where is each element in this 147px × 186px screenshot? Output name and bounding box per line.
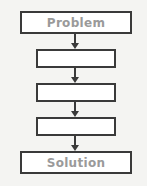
arrow-down-icon	[73, 136, 77, 151]
step-box-2	[36, 49, 116, 68]
step-box-4	[36, 117, 116, 136]
arrow-down-icon	[73, 68, 77, 83]
arrow-down-icon	[73, 34, 77, 49]
step-box-problem: Problem	[20, 11, 132, 34]
step-label: Solution	[47, 157, 106, 169]
arrow-down-icon	[73, 102, 77, 117]
step-box-solution: Solution	[20, 151, 132, 174]
step-box-3	[36, 83, 116, 102]
step-label: Problem	[47, 17, 105, 29]
